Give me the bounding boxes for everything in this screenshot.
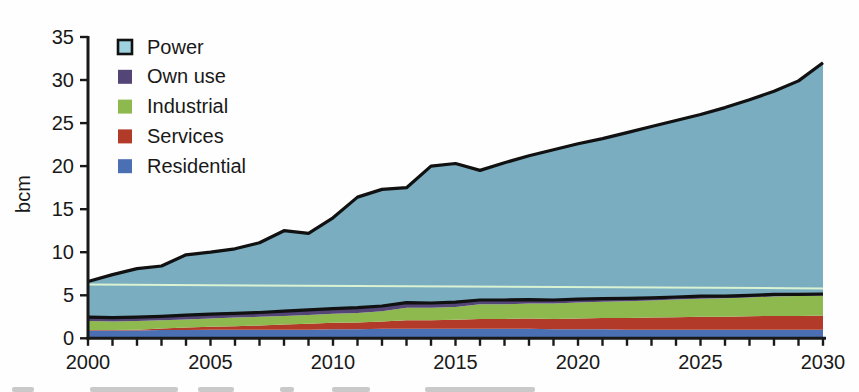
x-tick-label: 2015 <box>433 351 478 373</box>
legend-item-services: Services <box>118 125 224 147</box>
y-tick-label: 5 <box>63 284 74 306</box>
x-tick-label: 2020 <box>556 351 601 373</box>
legend: PowerOwn useIndustrialServicesResidentia… <box>118 36 246 177</box>
legend-label-power: Power <box>147 36 204 58</box>
legend-label-industrial: Industrial <box>147 95 228 117</box>
legend-swatch-residential <box>118 159 132 173</box>
legend-item-power: Power <box>118 36 204 58</box>
y-tick-label: 15 <box>52 198 74 220</box>
legend-item-own-use: Own use <box>118 65 226 87</box>
y-tick-label: 10 <box>52 241 74 263</box>
legend-swatch-own-use <box>118 70 132 84</box>
y-tick-label: 30 <box>52 69 74 91</box>
x-tick-label: 2030 <box>801 351 846 373</box>
chart-figure: 0510152025303520002005201020152020202520… <box>0 0 859 392</box>
y-axis-label: bcm <box>12 175 34 213</box>
legend-label-own-use: Own use <box>147 65 226 87</box>
legend-swatch-power <box>118 40 132 54</box>
x-tick-label: 2000 <box>66 351 111 373</box>
x-tick-label: 2005 <box>188 351 233 373</box>
legend-label-residential: Residential <box>147 155 246 177</box>
y-tick-label: 35 <box>52 26 74 48</box>
legend-label-services: Services <box>147 125 224 147</box>
legend-item-residential: Residential <box>118 155 246 177</box>
y-tick-label: 20 <box>52 155 74 177</box>
legend-swatch-industrial <box>118 100 132 114</box>
demand-chart-svg: 0510152025303520002005201020152020202520… <box>0 0 859 392</box>
y-tick-label: 0 <box>63 327 74 349</box>
legend-swatch-services <box>118 129 132 143</box>
x-tick-label: 2010 <box>311 351 356 373</box>
x-tick-label: 2025 <box>678 351 723 373</box>
legend-item-industrial: Industrial <box>118 95 228 117</box>
y-tick-label: 25 <box>52 112 74 134</box>
